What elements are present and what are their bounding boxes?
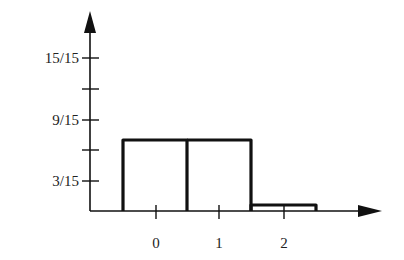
y-tick-label-3-15: 3/15	[52, 173, 79, 189]
x-tick-label-1: 1	[215, 235, 223, 251]
x-axis-arrow-icon	[358, 205, 382, 217]
bar-0	[123, 140, 187, 211]
histogram-bars	[123, 140, 316, 211]
y-tick-label-15-15: 15/15	[45, 50, 79, 66]
x-tick-label-2: 2	[280, 235, 288, 251]
x-ticks	[156, 205, 284, 219]
histogram-chart: 3/15 9/15 15/15 0 1 2	[0, 0, 404, 260]
x-tick-label-0: 0	[152, 235, 160, 251]
bar-1	[187, 140, 251, 211]
y-tick-label-9-15: 9/15	[52, 112, 79, 128]
y-axis-arrow-icon	[84, 11, 96, 33]
